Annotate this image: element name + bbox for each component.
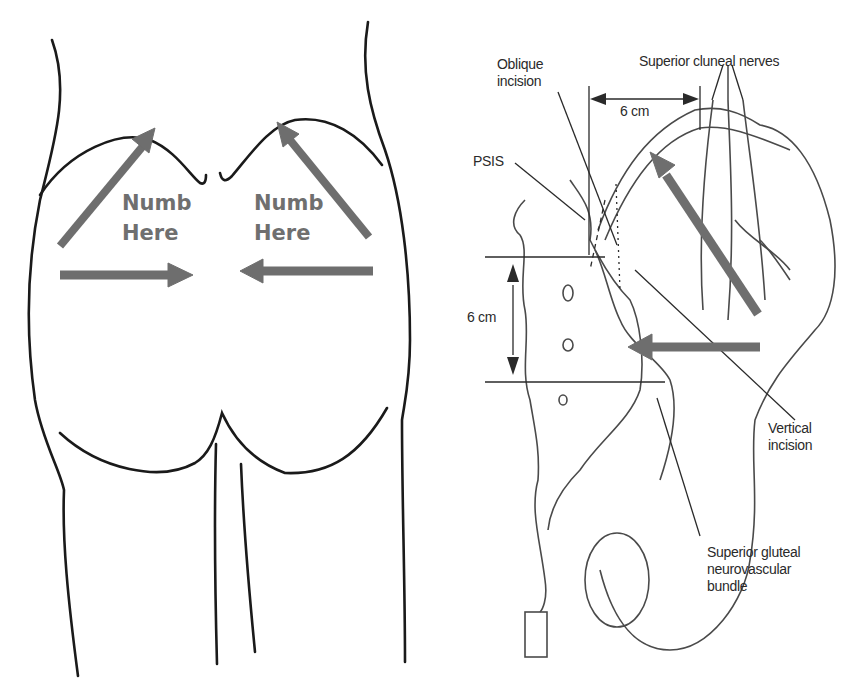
- sacrum-left-edge: [514, 200, 546, 612]
- label-superior-cluneal-nerves: Superior cluneal nerves: [639, 53, 779, 70]
- label-vertical-6cm: 6 cm: [467, 309, 496, 326]
- label-vertical-line2: incision: [768, 437, 812, 454]
- arrow-head-diagonal: [650, 152, 675, 178]
- left-body-contour: [29, 40, 78, 676]
- obturator-foramen: [585, 533, 649, 627]
- label-vertical-line1: Vertical: [768, 420, 812, 437]
- cluneal-nerve-3: [743, 100, 765, 300]
- label-gluteal-line1: Superior gluteal: [707, 544, 800, 561]
- cluneal-nerve-1: [701, 100, 713, 310]
- label-oblique-line1: Oblique: [497, 56, 543, 73]
- numb-label-left-line1: Numb: [122, 188, 191, 218]
- right-body-contour: [365, 22, 410, 662]
- numb-label-left-line2: Here: [122, 218, 191, 248]
- numb-label-right-line1: Numb: [254, 188, 323, 218]
- buttocks-outline-panel: Numb Here Numb Here: [0, 0, 430, 686]
- label-psis: PSIS: [473, 153, 504, 170]
- cluneal-nerve-2: [728, 100, 732, 320]
- inner-thigh-line-right: [241, 464, 255, 652]
- label-vertical-incision: Vertical incision: [768, 420, 812, 454]
- coccyx: [525, 612, 547, 657]
- pelvis-illustration-panel: Oblique incision Superior cluneal nerves…: [430, 0, 855, 686]
- dimension-arrow-left: [590, 93, 606, 105]
- dimension-arrow-down: [507, 357, 519, 375]
- dimension-arrow-up: [507, 264, 519, 282]
- numb-label-left: Numb Here: [122, 188, 191, 248]
- inner-thigh-line-left: [215, 444, 217, 664]
- dimension-arrow-right: [683, 93, 699, 105]
- sacrum-right-edge: [548, 180, 642, 530]
- buttocks-outline-drawing: [0, 0, 430, 686]
- label-gluteal-line3: bundle: [707, 578, 800, 595]
- label-gluteal-line2: neurovascular: [707, 561, 800, 578]
- label-oblique-line2: incision: [497, 73, 543, 90]
- psis-leader: [515, 163, 585, 220]
- oblique-incision-leader: [558, 92, 617, 245]
- label-horizontal-6cm: 6 cm: [620, 103, 649, 120]
- numb-label-right: Numb Here: [254, 188, 323, 248]
- numb-label-right-line2: Here: [254, 218, 323, 248]
- gluteal-folds: [60, 408, 387, 473]
- label-superior-gluteal-bundle: Superior gluteal neurovascular bundle: [707, 544, 800, 595]
- label-oblique-incision: Oblique incision: [497, 56, 543, 90]
